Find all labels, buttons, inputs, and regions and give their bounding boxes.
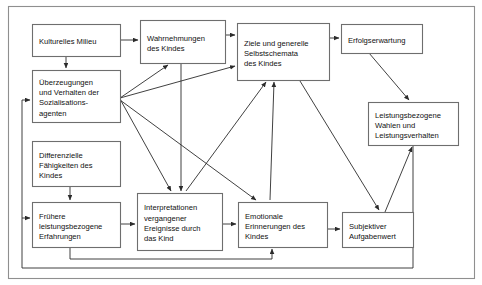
model-diagram: Kulturelles MilieuÜberzeugungenund Verha… xyxy=(0,0,482,285)
node-ueberzeugungen-sozialisationsagenten[interactable]: Überzeugungenund Verhalten derSozialisat… xyxy=(33,71,121,123)
node-fruehere-leistungsbezogene-erfahrungen[interactable]: FrühereleistungsbezogeneErfahrungen xyxy=(33,203,121,248)
node-layer: Kulturelles MilieuÜberzeugungenund Verha… xyxy=(33,21,459,251)
edge-interpretationen-to-ziele xyxy=(186,82,266,191)
diagram-canvas: Kulturelles MilieuÜberzeugungenund Verha… xyxy=(0,0,482,285)
edge-ueberzeugungen-to-wahrnehmungen xyxy=(120,65,168,98)
node-leistungsbezogene-wahlen-und-verhalten[interactable]: LeistungsbezogeneWahlen undLeistungsverh… xyxy=(369,103,459,146)
edge-ueberzeugungen-to-interpretationen xyxy=(120,99,171,191)
edge-ueberzeugungen-to-emotionale xyxy=(120,100,256,200)
node-erfolgserwartung[interactable]: Erfolgserwartung xyxy=(342,25,423,54)
edge-ueberzeugungen-to-ziele xyxy=(120,66,235,98)
edge-erfolgserwartung-to-leistungsbezogene xyxy=(369,53,409,100)
node-label-erfolgserwartung: Erfolgserwartung xyxy=(348,36,405,45)
node-emotionale-erinnerungen-des-kindes[interactable]: EmotionaleErinnerungen desKindes xyxy=(239,203,328,248)
node-interpretationen-vergangener-ereignisse[interactable]: InterpretationenvergangenerEreignisse du… xyxy=(138,194,223,251)
node-ziele-und-generelle-selbstschemata[interactable]: Ziele und generelleSelbstschematades Kin… xyxy=(238,24,330,81)
edge-ziele-to-subjektiver xyxy=(300,81,379,210)
node-kulturelles-milieu[interactable]: Kulturelles Milieu xyxy=(33,25,121,57)
node-wahrnehmungen-des-kindes[interactable]: Wahrnehmungendes Kindes xyxy=(141,21,226,64)
edge-emotionale-to-ziele xyxy=(270,82,274,200)
node-label-kulturelles-milieu: Kulturelles Milieu xyxy=(39,37,96,46)
node-subjektiver-aufgabenwert[interactable]: SubjektiverAufgabenwert xyxy=(343,213,414,248)
edge-subjektiver-to-leistungsbezogene xyxy=(385,147,412,212)
node-differenzielle-faehigkeiten-des-kindes[interactable]: DifferenzielleFähigkeiten desKindes xyxy=(33,142,121,187)
